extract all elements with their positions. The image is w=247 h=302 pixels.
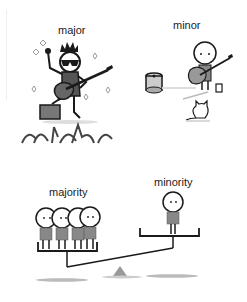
seesaw <box>36 192 199 282</box>
majority-people <box>36 207 100 249</box>
major-rockstar <box>22 40 113 143</box>
illustration <box>0 0 247 302</box>
minor-busker <box>146 42 233 121</box>
